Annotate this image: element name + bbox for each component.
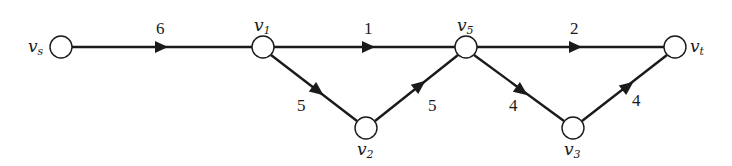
label-v5: v5: [457, 15, 474, 37]
network-diagram: 6 1 2 5 5 4 4 vs v1 v5 vt v2 v3: [0, 0, 732, 166]
node-v2: [355, 117, 377, 139]
label-vt: vt: [690, 36, 705, 58]
weight-v5-vt: 2: [570, 19, 579, 38]
weight-v3-vt: 4: [632, 91, 641, 110]
weight-v1-v2: 5: [297, 96, 306, 115]
arrow-right-icon: [362, 41, 375, 53]
node-v1: [252, 36, 274, 58]
weight-v5-v3: 4: [509, 96, 518, 115]
arrow-right-icon: [155, 41, 168, 53]
edges: [72, 47, 667, 121]
arrowheads: [155, 41, 637, 100]
nodes: [50, 36, 686, 139]
node-v5: [455, 36, 477, 58]
weight-v1-v5: 1: [364, 19, 373, 38]
label-v2: v2: [357, 139, 374, 161]
node-vt: [664, 36, 686, 58]
weight-v2-v5: 5: [428, 96, 437, 115]
node-vs: [50, 36, 72, 58]
weight-vs-v1: 6: [156, 19, 165, 38]
label-vs: vs: [28, 36, 44, 58]
label-v1: v1: [254, 15, 271, 37]
node-v3: [562, 117, 584, 139]
label-v3: v3: [564, 139, 581, 161]
edge-weights: 6 1 2 5 5 4 4: [156, 19, 641, 115]
arrow-right-icon: [569, 41, 582, 53]
